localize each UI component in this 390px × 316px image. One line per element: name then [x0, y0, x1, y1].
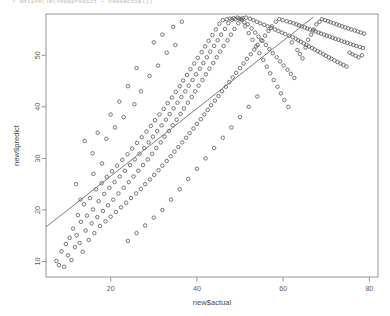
scatter-point [179, 112, 183, 116]
scatter-point [282, 64, 286, 68]
scatter-point [288, 21, 292, 25]
scatter-point [55, 259, 59, 263]
scatter-point [123, 169, 127, 173]
scatter-point [145, 130, 149, 134]
scatter-point [195, 122, 199, 126]
scatter-point [92, 172, 96, 176]
scatter-point [172, 107, 176, 111]
scatter-point [176, 101, 180, 105]
scatter-point [280, 31, 284, 35]
scatter-point [91, 151, 95, 155]
scatter-point [252, 18, 256, 22]
scatter-point [158, 113, 162, 117]
scatter-point [215, 56, 219, 60]
scatter-point [149, 124, 153, 128]
scatter-point [222, 44, 226, 48]
x-tick-label: 40 [193, 284, 201, 293]
scatter-point [197, 84, 201, 88]
scatter-point [214, 28, 218, 32]
scatter-point [134, 192, 138, 196]
scatter-point [196, 56, 200, 60]
scatter-point [169, 198, 173, 202]
scatter-point [238, 66, 242, 70]
scatter-point [150, 152, 154, 156]
scatter-point [286, 68, 290, 72]
scatter-point [181, 79, 185, 83]
scatter-point [110, 170, 114, 174]
scatter-point [79, 220, 83, 224]
y-tick-label: 50 [34, 51, 43, 59]
scatter-point [122, 115, 126, 119]
scatter-point [265, 65, 269, 69]
scatter-point [234, 71, 238, 75]
scatter-point [289, 72, 293, 76]
scatter-point [62, 265, 66, 269]
scatter-point [189, 67, 193, 71]
scatter-point [71, 227, 75, 231]
scatter-point [139, 90, 143, 94]
scatter-point [190, 95, 194, 99]
scatter-point [202, 113, 206, 117]
scatter-point [60, 249, 64, 253]
x-axis-title: new$actual [193, 298, 232, 307]
scatter-point [276, 85, 280, 89]
scatter-point [121, 158, 125, 162]
scatter-point [147, 141, 151, 145]
scatter-point [97, 199, 101, 203]
scatter-point [175, 118, 179, 122]
scatter-point [90, 222, 94, 226]
scatter-point [83, 139, 87, 143]
scatter-point [156, 64, 160, 68]
scatter-point [169, 155, 173, 159]
scatter-point [221, 18, 225, 22]
scatter-point [168, 112, 172, 116]
scatter-point [81, 250, 85, 254]
r-plot-window: > abline(lm(new$predict ~ new$actual)) 2… [0, 0, 390, 316]
scatter-point [217, 94, 221, 98]
scatter-point [248, 17, 252, 21]
scatter-point [256, 95, 260, 99]
scatter-point [242, 62, 246, 65]
scatter-point [225, 17, 229, 21]
scatter-point [275, 56, 279, 60]
scatter-point [76, 213, 80, 217]
scatter-point [165, 159, 169, 163]
scatter-point [267, 29, 271, 33]
y-tick-label: 10 [34, 258, 43, 266]
scatter-point [132, 175, 136, 179]
scatter-point [109, 215, 113, 219]
scatter-point [85, 214, 89, 218]
scatter-point [233, 27, 237, 31]
scatter-point [191, 78, 195, 82]
scatter-point [171, 25, 175, 29]
scatter-point [135, 231, 139, 235]
scatter-point [278, 17, 282, 21]
scatter-points [55, 16, 366, 269]
scatter-point [126, 84, 130, 88]
scatter-point [75, 233, 79, 237]
scatter-point [100, 162, 104, 166]
scatter-point [268, 72, 272, 76]
scatter-point [209, 50, 213, 54]
scatter-point [140, 136, 144, 140]
scatter-point [161, 208, 165, 212]
scatter-point [180, 20, 184, 24]
plot-frame [46, 14, 378, 277]
scatter-point [180, 95, 184, 99]
scatter-point [230, 126, 234, 130]
scatter-point [231, 76, 235, 80]
scatter-point [201, 78, 205, 82]
scatter-point [290, 41, 294, 45]
scatter-point [193, 90, 197, 94]
scatter-point [118, 100, 122, 104]
scatter-point [104, 220, 108, 224]
scatter-point [202, 61, 206, 65]
scatter-point [91, 208, 95, 212]
scatter-point [216, 39, 220, 43]
scatter-point [293, 76, 297, 80]
scatter-point [221, 136, 225, 140]
scatter-point [212, 44, 216, 48]
scatter-point [128, 163, 132, 167]
scatter-point [113, 180, 117, 184]
x-tick-label: 80 [365, 284, 373, 293]
